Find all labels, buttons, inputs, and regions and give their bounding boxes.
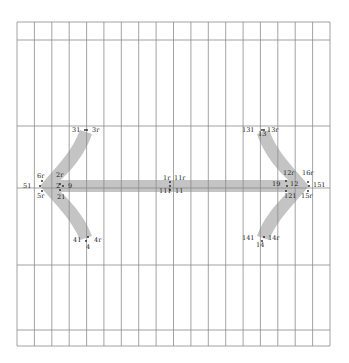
point-label: 151 [313,181,325,189]
point-label: 12r [283,169,295,177]
point-label: 19 [272,180,280,188]
point-label: 2r [56,171,64,179]
left-arrowhead-upper-barb [40,130,92,186]
point-label: 111 [159,187,171,195]
right-arrowhead-upper-barb [257,130,309,186]
point-label: 51 [23,182,31,190]
control-point [286,185,288,187]
double-headed-arrow [40,130,309,240]
point-label: 21 [57,193,65,201]
arrow-diagram: 313r6r2r51295r21414r41r11r1111113113r131… [0,0,349,363]
control-point [39,185,41,187]
control-point [263,236,265,238]
point-label: 14 [256,241,264,249]
point-label: 4r [94,236,102,244]
point-label: 2 [56,182,60,190]
point-label: 13r [267,126,279,134]
point-label: 12 [290,180,298,188]
control-point [307,181,309,183]
control-point [86,129,88,131]
point-label: 6r [37,172,45,180]
control-point [41,180,43,182]
point-label: 121 [284,192,296,200]
control-point [308,185,310,187]
point-label: 41 [73,236,81,244]
point-label: 31 [72,126,80,134]
control-point [87,236,89,238]
point-label: 4 [86,243,90,251]
point-label: 1r [163,174,171,182]
control-point [85,240,87,242]
control-point [285,180,287,182]
point-label: 5r [37,192,45,200]
point-label: 14r [268,234,280,242]
point-label: 15r [301,192,313,200]
left-arrowhead-lower-barb [40,186,92,240]
point-label: 11 [175,187,183,195]
point-label: 13 [258,130,266,138]
point-label: 3r [92,126,100,134]
control-point [62,185,64,187]
point-label: 9 [68,182,72,190]
control-point [84,129,86,131]
point-label: 131 [242,126,254,134]
point-label: 141 [242,234,254,242]
point-label: 11r [174,174,186,182]
point-label: 16r [302,169,314,177]
